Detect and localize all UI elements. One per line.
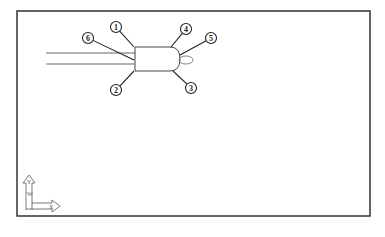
ucs-x-label: X [49, 204, 54, 210]
ucs-w-label: W [27, 191, 33, 197]
balloon-label-1: 1 [114, 23, 118, 32]
balloon-label-5: 5 [209, 34, 213, 43]
balloon-label-6: 6 [86, 34, 90, 43]
part-body [135, 47, 180, 71]
leader-line-3 [173, 71, 187, 84]
leader-line-4 [171, 33, 182, 47]
leader-line-5 [180, 41, 206, 55]
callout-balloons: 164523 [83, 22, 217, 96]
drawing-border [17, 11, 370, 216]
balloon-label-4: 4 [184, 25, 188, 34]
ucs-y-label: Y [27, 179, 32, 185]
leader-line-1 [120, 31, 134, 47]
drawing-canvas: 164523 Y W X [0, 0, 385, 237]
leader-line-2 [120, 71, 134, 86]
balloon-label-2: 2 [114, 86, 118, 95]
balloon-label-3: 3 [189, 84, 193, 93]
leader-line-6 [93, 40, 134, 60]
loop-feature [179, 56, 193, 64]
